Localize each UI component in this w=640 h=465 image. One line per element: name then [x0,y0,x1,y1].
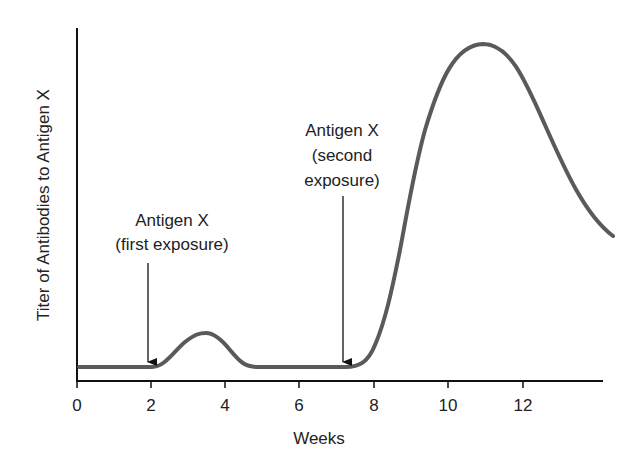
x-tick-label: 8 [369,396,378,415]
x-tick-label: 2 [146,396,155,415]
x-tick-label: 10 [439,396,458,415]
annotation-line: exposure) [304,171,380,190]
x-tick-label: 0 [72,396,81,415]
x-tick-label: 4 [220,396,229,415]
y-axis-title: Titer of Antibodies to Antigen X [34,89,53,321]
annotation-line: (first exposure) [115,235,228,254]
x-tick-label: 6 [294,396,303,415]
x-ticks [77,381,523,388]
x-tick-label: 12 [514,396,533,415]
annotation-second-exposure: Antigen X (second exposure) [304,121,380,362]
annotation-first-exposure: Antigen X (first exposure) [115,211,228,362]
x-tick-labels: 0 2 4 6 8 10 12 [72,396,532,415]
antibody-titer-curve [79,44,613,367]
x-axis-title: Weeks [293,429,345,448]
annotation-line: Antigen X [305,121,379,140]
annotation-line: Antigen X [135,211,209,230]
antibody-response-chart: 0 2 4 6 8 10 12 Weeks Titer of Antibodie… [0,0,640,465]
annotation-line: (second [312,146,372,165]
